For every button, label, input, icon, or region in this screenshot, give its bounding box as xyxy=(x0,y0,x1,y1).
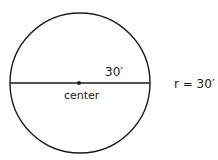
center-point xyxy=(77,81,81,85)
radius-formula-label: r = 30′ xyxy=(174,77,215,91)
center-label: center xyxy=(64,89,100,102)
circle-diagram: 30′ center r = 30′ xyxy=(0,0,218,160)
radius-length-label: 30′ xyxy=(105,65,123,79)
